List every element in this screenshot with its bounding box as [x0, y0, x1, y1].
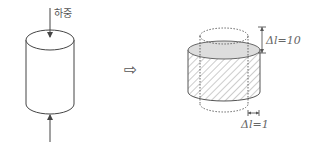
deformed-cylinder [188, 41, 260, 101]
bottom-load-arrow-icon [47, 114, 53, 142]
vertical-change-label: Δl=10 [266, 35, 301, 46]
transition-arrow-icon: ⇨ [124, 62, 137, 78]
load-label: 하중 [54, 9, 72, 19]
horizontal-change-label: Δl=1 [241, 119, 269, 130]
top-load-arrow-icon [47, 8, 53, 38]
horizontal-dimension-marker [248, 110, 259, 116]
original-cylinder [26, 30, 74, 114]
